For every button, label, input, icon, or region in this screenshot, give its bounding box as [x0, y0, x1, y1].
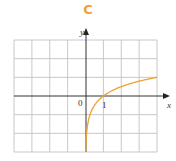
origin-label: 0 [78, 98, 83, 108]
graph: y x 0 1 [0, 0, 176, 161]
y-axis-label: y [79, 27, 84, 37]
x-axis-arrow-icon [163, 93, 170, 99]
x-axis-label: x [166, 100, 171, 110]
x-tick-label-1: 1 [102, 100, 107, 110]
